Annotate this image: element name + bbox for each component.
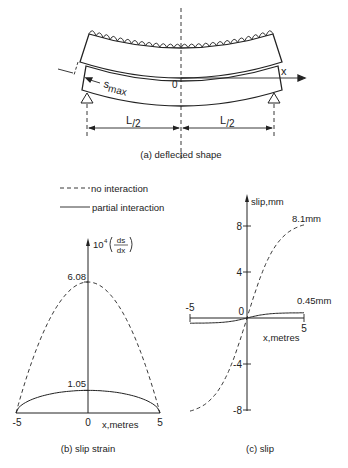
caption-a: (a) deflected shape — [140, 149, 221, 160]
b-x-tick-5: 5 — [157, 417, 163, 428]
slip-subscript: max — [107, 83, 128, 98]
legend: no interaction partial interaction — [60, 183, 164, 213]
origin-label: 0 — [172, 79, 178, 90]
b-y-axis-label: 10 4 ds dx — [93, 236, 132, 255]
b-x-axis-label: x,metres — [102, 419, 139, 430]
slip-marker-tick — [74, 62, 78, 75]
half-span-right: L/2 — [220, 114, 235, 129]
b-y-label-base: 10 — [93, 239, 104, 250]
figure: x 0 smax L/2 L/2 (a) deflected shape no … — [0, 0, 348, 468]
c-y-tick-label: 8 — [236, 221, 242, 232]
x-axis-label-a: x — [281, 65, 287, 77]
legend-label-no-interaction: no interaction — [91, 183, 148, 194]
x-axis-arrowhead — [298, 75, 305, 81]
legend-label-partial-interaction: partial interaction — [92, 202, 164, 213]
b-annotation-6.08: 6.08 — [68, 271, 87, 282]
c-x-tick-5: 5 — [301, 323, 307, 334]
b-y-label-denominator: dx — [117, 246, 125, 255]
slip-arrowhead — [86, 78, 92, 82]
b-x-tick-neg5: -5 — [13, 417, 22, 428]
b-y-label-exp: 4 — [104, 238, 108, 244]
slip-strain-chart: 6.08 1.05 -5 0 5 x,metres 10 4 ds dx (b)… — [13, 236, 164, 454]
c-y-tick-label: 0 — [238, 306, 244, 317]
caption-c: (c) slip — [246, 443, 274, 454]
slip-pointer — [58, 69, 73, 73]
c-y-tick-label: 4 — [236, 267, 242, 278]
deflected-shape-diagram — [58, 8, 305, 160]
b-x-tick-0: 0 — [85, 417, 91, 428]
half-span-left-den: /2 — [132, 118, 141, 129]
slip-max-label: smax — [102, 77, 129, 97]
c-annotation-8.1mm: 8.1mm — [292, 213, 321, 224]
c-y-axis-label: slip,mm — [251, 196, 284, 207]
c-y-tick-label: -8 — [233, 405, 242, 416]
c-x-axis-label: x,metres — [263, 332, 300, 343]
slip-chart: 840-4-8 8.1mm 0.45mm -5 5 x,metres slip,… — [186, 194, 332, 454]
caption-b: (b) slip strain — [61, 443, 115, 454]
c-annotation-0.45mm: 0.45mm — [297, 295, 331, 306]
half-span-left: L/2 — [126, 114, 141, 129]
b-y-label-numerator: ds — [117, 236, 125, 245]
half-span-right-den: /2 — [226, 118, 235, 129]
b-annotation-1.05: 1.05 — [68, 378, 87, 389]
left-support-icon — [81, 93, 93, 103]
c-y-axis-arrowhead — [245, 194, 249, 202]
right-support-icon — [268, 93, 280, 103]
b-y-axis-arrowhead — [86, 238, 90, 246]
c-y-tick-label: -4 — [233, 359, 242, 370]
c-x-tick-neg5: -5 — [186, 302, 195, 313]
